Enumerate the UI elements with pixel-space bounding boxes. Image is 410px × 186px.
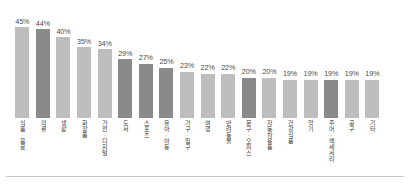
bar-slot[interactable]: 19% <box>342 6 363 118</box>
bar-slot[interactable]: 29% <box>115 6 136 118</box>
bar-slot[interactable]: 40% <box>53 6 74 118</box>
x-axis-label: 문구·오피스 <box>246 120 252 156</box>
bar[interactable] <box>15 27 29 118</box>
x-axis-label: 기타 <box>369 120 375 132</box>
x-axis-label: 주어·액세서리 <box>328 120 334 162</box>
bar-value-label: 19% <box>365 70 379 77</box>
x-axis-label-slot: 의류 <box>33 120 54 168</box>
bar[interactable] <box>201 74 215 118</box>
bar-value-label: 29% <box>118 50 132 57</box>
x-axis-label-slot: 유아·아동 <box>156 120 177 168</box>
bar-slot[interactable]: 45% <box>12 6 33 118</box>
bar-value-label: 20% <box>242 68 256 75</box>
bar-value-label: 22% <box>201 64 215 71</box>
bar-slot[interactable]: 20% <box>259 6 280 118</box>
bar[interactable] <box>345 80 359 118</box>
bar-chart: 45%44%40%35%34%29%27%25%23%22%22%20%20%1… <box>0 0 410 186</box>
x-axis-label: 가전·디지털 <box>102 120 108 156</box>
x-axis-label-slot: 화장품 <box>74 120 95 168</box>
bar[interactable] <box>159 68 173 119</box>
x-axis-label-slot: 반려동물 <box>218 120 239 168</box>
bar[interactable] <box>242 78 256 118</box>
bar-slot[interactable]: 34% <box>94 6 115 118</box>
bar[interactable] <box>221 74 235 118</box>
x-axis-label-slot: 건강식품 <box>280 120 301 168</box>
x-axis-label: 공구 <box>349 120 355 132</box>
x-axis-label-slot: 가전·디지털 <box>94 120 115 168</box>
bar-value-label: 19% <box>345 70 359 77</box>
x-axis-label: 악기 <box>307 120 313 132</box>
bar[interactable] <box>118 59 132 118</box>
x-axis-label-slot: 여행 <box>197 120 218 168</box>
x-axis-label: 식품·음료 <box>19 120 25 150</box>
bar-slot[interactable]: 27% <box>136 6 157 118</box>
bar[interactable] <box>262 78 276 118</box>
x-axis-label: 생활 <box>60 120 66 132</box>
bar-value-label: 40% <box>56 28 70 35</box>
plot-area: 45%44%40%35%34%29%27%25%23%22%22%20%20%1… <box>12 6 400 118</box>
bar-slot[interactable]: 25% <box>156 6 177 118</box>
bar-value-label: 25% <box>159 58 173 65</box>
bar-value-label: 19% <box>324 70 338 77</box>
bar-slot[interactable]: 22% <box>197 6 218 118</box>
bar[interactable] <box>56 37 70 118</box>
bar-value-label: 23% <box>180 62 194 69</box>
x-axis-label-slot: 공구 <box>342 120 363 168</box>
x-axis-label-slot: 가구·침구 <box>177 120 198 168</box>
x-axis-label-slot: 주어·액세서리 <box>321 120 342 168</box>
x-axis-label-slot: 기타 <box>362 120 383 168</box>
x-axis-label-slot: 생활 <box>53 120 74 168</box>
x-axis-label: 가구·침구 <box>184 120 190 150</box>
x-axis-label: 자동차용품 <box>266 120 272 150</box>
x-axis-label-slot: 스포츠 <box>136 120 157 168</box>
x-axis-label: 반려동물 <box>225 120 231 144</box>
bottom-divider <box>6 176 404 177</box>
x-axis-label-slot: 악기 <box>300 120 321 168</box>
bar-value-label: 44% <box>36 20 50 27</box>
bar-value-label: 19% <box>304 70 318 77</box>
bar-value-label: 34% <box>98 40 112 47</box>
bar[interactable] <box>365 80 379 118</box>
bar[interactable] <box>180 72 194 119</box>
bar-slot[interactable]: 19% <box>280 6 301 118</box>
bar[interactable] <box>324 80 338 118</box>
bar-slot[interactable]: 22% <box>218 6 239 118</box>
x-axis-label-slot: 문구·오피스 <box>239 120 260 168</box>
bar[interactable] <box>283 80 297 118</box>
bar[interactable] <box>304 80 318 118</box>
x-axis-label: 유아·아동 <box>163 120 169 150</box>
x-axis-label: 의류 <box>40 120 46 132</box>
x-axis-label-slot: 식품·음료 <box>12 120 33 168</box>
x-axis-label: 스포츠 <box>143 120 149 138</box>
bar-slot[interactable]: 19% <box>300 6 321 118</box>
bar[interactable] <box>139 64 153 119</box>
bar-value-label: 45% <box>15 18 29 25</box>
bar-value-label: 27% <box>139 54 153 61</box>
bar[interactable] <box>36 29 50 118</box>
bar-slot[interactable]: 20% <box>239 6 260 118</box>
bar-slot[interactable]: 44% <box>33 6 54 118</box>
bar-slot[interactable]: 19% <box>321 6 342 118</box>
x-axis-label-slot: 자동차용품 <box>259 120 280 168</box>
bar[interactable] <box>98 49 112 118</box>
x-axis-label: 도서 <box>122 120 128 132</box>
bar-slot[interactable]: 19% <box>362 6 383 118</box>
x-axis-label: 화장품 <box>81 120 87 138</box>
bar-slot[interactable]: 23% <box>177 6 198 118</box>
bar-value-label: 35% <box>77 38 91 45</box>
x-axis-label: 여행 <box>204 120 210 132</box>
bar-value-label: 20% <box>262 68 276 75</box>
bar-slot[interactable]: 35% <box>74 6 95 118</box>
x-axis-label: 건강식품 <box>287 120 293 144</box>
x-axis-label-slot: 도서 <box>115 120 136 168</box>
bar-value-label: 19% <box>283 70 297 77</box>
x-axis-label-row: 식품·음료의류생활화장품가전·디지털도서스포츠유아·아동가구·침구여행반려동물문… <box>12 120 400 168</box>
bar[interactable] <box>77 47 91 118</box>
bar-value-label: 22% <box>221 64 235 71</box>
